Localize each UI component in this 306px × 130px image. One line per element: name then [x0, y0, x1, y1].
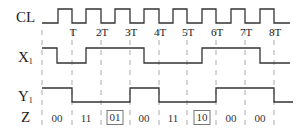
tick-1t: T — [70, 27, 77, 38]
x1-label: X1 — [18, 50, 33, 66]
y1-waveform — [42, 88, 293, 102]
z-value: 11 — [166, 112, 181, 125]
tick-4t: 4T — [154, 27, 166, 38]
tick-2t: 2T — [96, 27, 108, 38]
x1-waveform — [42, 48, 290, 63]
timing-diagram — [0, 0, 306, 130]
z-value: 00 — [137, 112, 152, 125]
z-value-boxed: 10 — [194, 110, 211, 125]
z-value: 00 — [50, 112, 65, 125]
cl-waveform — [42, 9, 290, 23]
z-label: Z — [21, 110, 30, 125]
tick-6t: 6T — [211, 27, 223, 38]
tick-8t: 8T — [269, 27, 281, 38]
z-value: 11 — [79, 112, 94, 125]
tick-5t: 5T — [182, 27, 194, 38]
tick-3t: 3T — [125, 27, 137, 38]
z-value: 00 — [253, 112, 268, 125]
z-value: 00 — [224, 112, 239, 125]
z-value-boxed: 01 — [107, 110, 124, 125]
tick-7t: 7T — [240, 27, 252, 38]
y1-label: Y1 — [18, 89, 33, 105]
reference-dashed-lines — [42, 30, 274, 125]
cl-label: CL — [16, 10, 35, 25]
